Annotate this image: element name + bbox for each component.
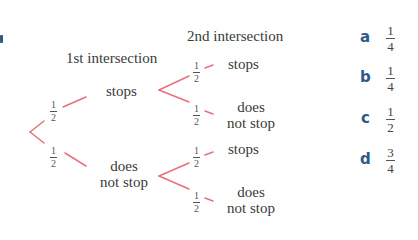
- prob-notstop-stops: 12: [193, 146, 200, 169]
- leaf-line1: does: [219, 184, 283, 200]
- branch-root-stops-2: [63, 97, 86, 107]
- leaf-line1: does: [219, 99, 283, 115]
- leaf-stops-notstop: does not stop: [219, 99, 283, 131]
- branch-root-notstop: [30, 132, 44, 143]
- node-stops: stops: [106, 83, 137, 99]
- node-line2: not stop: [94, 174, 154, 190]
- answer-key-c: c: [361, 109, 370, 127]
- answer-value-b: 14: [386, 64, 395, 93]
- answer-key-a: a: [360, 28, 370, 46]
- answer-value-a: 14: [386, 24, 395, 53]
- prob-root-stops: 12: [50, 100, 57, 123]
- node-line1: does: [94, 158, 154, 174]
- answer-value-c: 12: [386, 105, 395, 134]
- answer-value-d: 34: [386, 146, 395, 175]
- branch-root-notstop-2: [65, 153, 86, 166]
- leaf-line2: not stop: [219, 115, 283, 131]
- leaf-stops-stops: stops: [228, 56, 259, 72]
- prob-root-notstop: 12: [50, 146, 57, 169]
- prob-stops-stops: 12: [193, 61, 200, 84]
- leaf-notstop-stops: stops: [228, 141, 259, 157]
- prob-stops-notstop: 12: [193, 104, 200, 127]
- leaf-line2: not stop: [219, 200, 283, 216]
- header-2nd-intersection: 2nd intersection: [187, 28, 283, 44]
- leaf-notstop-notstop: does not stop: [219, 184, 283, 216]
- answer-key-b: b: [360, 68, 371, 86]
- branch-root-stops: [30, 121, 44, 132]
- header-1st-intersection: 1st intersection: [66, 50, 157, 66]
- prob-notstop-notstop: 12: [193, 191, 200, 214]
- node-does-not-stop: does not stop: [94, 158, 154, 190]
- answer-key-d: d: [360, 150, 371, 168]
